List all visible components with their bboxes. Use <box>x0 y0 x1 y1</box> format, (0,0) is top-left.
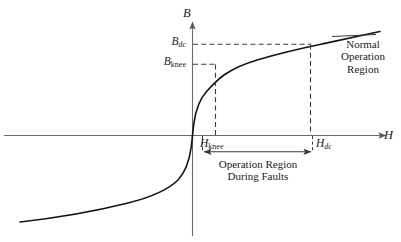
b-dc-label: Bdc <box>134 35 186 48</box>
h-dc-label: Hdc <box>316 137 332 150</box>
fault-region-line-1: Operation Region <box>198 158 318 170</box>
fault-region-line-2: During Faults <box>198 170 318 182</box>
normal-region-line-2: Operation <box>330 50 396 62</box>
h-knee-label: Hknee <box>200 137 223 150</box>
bh-saturation-curve <box>20 32 380 223</box>
b-axis-label: B <box>183 6 191 20</box>
normal-region-line-3: Region <box>330 63 396 75</box>
bh-curve-figure: B H Bdc Bknee Hknee Hdc Normal Operation… <box>0 0 401 242</box>
normal-operation-region-annotation: Normal Operation Region <box>330 38 396 75</box>
h-dc-label-sub: dc <box>324 142 332 151</box>
normal-region-line-1: Normal <box>330 38 396 50</box>
b-knee-label-base: B <box>164 55 171 67</box>
normal-region-leader-line <box>332 35 376 37</box>
b-dc-label-sub: dc <box>178 40 186 49</box>
h-axis-label: H <box>384 128 393 142</box>
h-knee-label-sub: knee <box>208 142 223 151</box>
b-knee-label: Bknee <box>118 55 186 68</box>
fault-operation-region-annotation: Operation Region During Faults <box>198 158 318 183</box>
bh-curve-svg <box>0 0 401 242</box>
b-knee-label-sub: knee <box>171 60 186 69</box>
